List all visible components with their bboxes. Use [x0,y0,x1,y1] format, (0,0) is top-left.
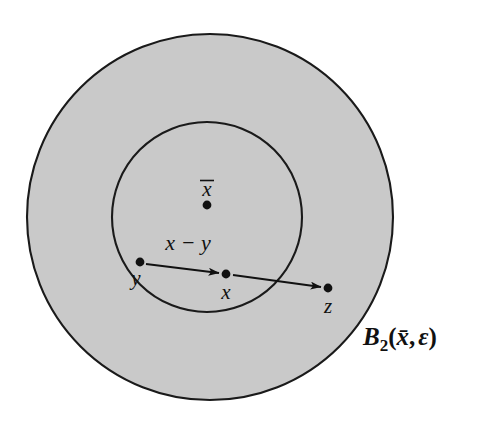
ball-label-subscript: 2 [380,336,389,355]
ball-label-center-var: x̄ [396,323,410,350]
point-xbar-dot [203,201,212,210]
outer-ball-label: B2(x̄,ε) [362,323,437,355]
point-y-label: y [129,266,141,290]
outer-ball-label-group: B2(x̄,ε) [362,323,437,355]
point-z-label: z [323,294,332,318]
vector-x-minus-y-label: x − y [164,230,211,255]
point-x-label: x [220,280,231,304]
figure-container: x y x z x − y B2(x̄,ε) [0,0,480,425]
ball-label-comma: , [409,323,415,350]
point-z-dot [324,284,333,293]
ball-label-base: B [362,323,380,350]
point-x-dot [222,270,231,279]
ball-label-open-paren: ( [388,323,396,351]
epsilon-ball-diagram: x y x z x − y B2(x̄,ε) [0,0,480,425]
ball-label-close-paren: ) [429,323,437,351]
